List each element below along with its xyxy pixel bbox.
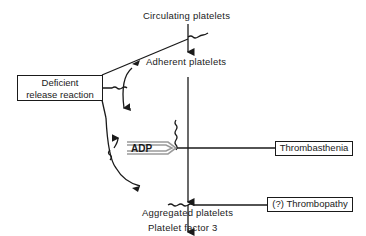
node-pf3: Platelet factor 3 [148, 222, 217, 233]
thrombopathy-box: (?) Thrombopathy [267, 197, 353, 212]
deficient-release-line1: Deficient [18, 77, 102, 89]
wavy-block-bottom [168, 204, 193, 206]
node-adherent: Adherent platelets [146, 56, 226, 67]
node-aggregated: Aggregated platelets [142, 207, 233, 218]
deficient-release-box: Deficient release reaction [17, 75, 103, 101]
deficient-release-line2: release reaction [18, 89, 102, 101]
node-circulating: Circulating platelets [143, 10, 230, 21]
thrombasthenia-box: Thrombasthenia [275, 141, 353, 156]
wavy-block-adp [175, 120, 177, 150]
wavy-block-top [188, 33, 208, 38]
adp-label: ADP [131, 143, 152, 154]
